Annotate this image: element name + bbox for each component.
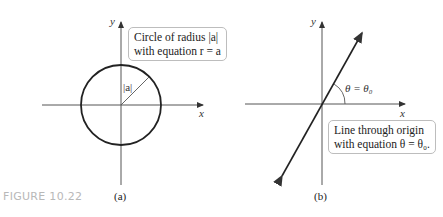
y-axis-label-a: y <box>110 15 115 27</box>
figure-label: FIGURE 10.22 <box>3 190 82 203</box>
caption-b: (b) <box>314 190 327 202</box>
x-axis-label-b: x <box>400 107 405 119</box>
angle-arc <box>334 84 345 104</box>
caption-a: (a) <box>114 190 126 202</box>
callout-circle: Circle of radius |a| with equation r = a <box>128 27 227 61</box>
callout-line: Line through origin with equation θ = θ₀… <box>328 120 436 154</box>
callout-line-line2: with equation θ = θ₀. <box>334 137 430 151</box>
x-axis-label-a: x <box>199 107 204 119</box>
angle-label: θ = θ₀ <box>345 82 373 94</box>
panel-b <box>245 22 405 185</box>
callout-circle-line2: with equation r = a <box>134 44 221 58</box>
radius-label: |a| <box>123 81 132 93</box>
callout-circle-line1: Circle of radius |a| <box>134 30 221 44</box>
callout-line-line1: Line through origin <box>334 123 430 137</box>
y-axis-label-b: y <box>311 15 316 27</box>
